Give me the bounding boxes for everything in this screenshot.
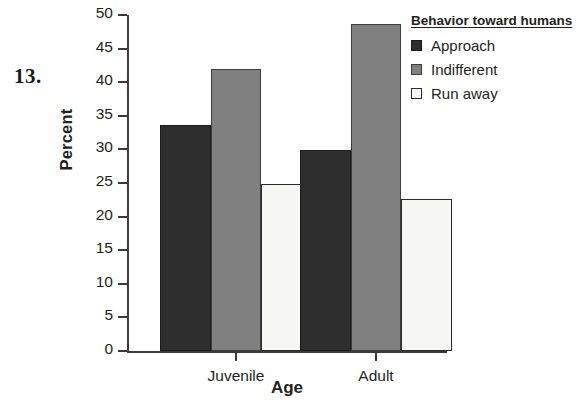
bar-adult-approach (300, 150, 351, 351)
y-tick: 45 (118, 48, 127, 50)
bar-juvenile-approach (160, 125, 211, 351)
y-tick: 20 (118, 216, 127, 218)
legend-label: Indifferent (431, 61, 497, 78)
legend-swatch-icon (411, 88, 422, 99)
y-tick-label: 50 (96, 4, 113, 22)
legend-swatch-icon (411, 40, 422, 51)
y-tick: 35 (118, 115, 127, 117)
y-tick: 40 (118, 81, 127, 83)
bar-juvenile-indifferent (211, 69, 262, 351)
x-axis-line (127, 351, 447, 353)
legend-entries: ApproachIndifferentRun away (411, 37, 583, 102)
y-tick-label: 20 (96, 206, 113, 224)
x-tick (235, 352, 237, 361)
y-tick-label: 15 (96, 239, 113, 257)
y-tick: 15 (118, 249, 127, 251)
y-tick: 50 (118, 14, 127, 16)
bar-adult-indifferent (351, 24, 402, 351)
y-axis-label: Percent (57, 70, 76, 210)
legend-item-indifferent: Indifferent (411, 61, 583, 78)
y-tick-label: 10 (96, 273, 113, 291)
y-tick: 5 (118, 316, 127, 318)
bar-adult-run-away (401, 199, 452, 351)
y-tick-label: 45 (96, 38, 113, 56)
legend-item-run-away: Run away (411, 85, 583, 102)
legend-title: Behavior toward humans (411, 13, 583, 28)
legend-swatch-icon (411, 64, 422, 75)
y-tick: 25 (118, 182, 127, 184)
x-tick (375, 352, 377, 361)
legend-item-approach: Approach (411, 37, 583, 54)
y-tick: 10 (118, 283, 127, 285)
y-tick: 0 (118, 350, 127, 352)
legend-label: Run away (431, 85, 498, 102)
legend: Behavior toward humans ApproachIndiffere… (411, 13, 583, 109)
item-number: 13. (14, 64, 42, 89)
chart-page: 13. Percent 05101520253035404550 Juvenil… (0, 0, 583, 414)
y-tick: 30 (118, 148, 127, 150)
y-axis-line (127, 15, 129, 351)
y-tick-label: 30 (96, 138, 113, 156)
y-tick-label: 0 (104, 340, 113, 358)
y-tick-label: 5 (104, 306, 113, 324)
x-axis-label: Age (127, 378, 447, 398)
y-tick-label: 40 (96, 71, 113, 89)
plot-area: 05101520253035404550 JuvenileAdult (127, 15, 447, 351)
legend-label: Approach (431, 37, 495, 54)
y-tick-label: 35 (96, 105, 113, 123)
y-tick-label: 25 (96, 172, 113, 190)
